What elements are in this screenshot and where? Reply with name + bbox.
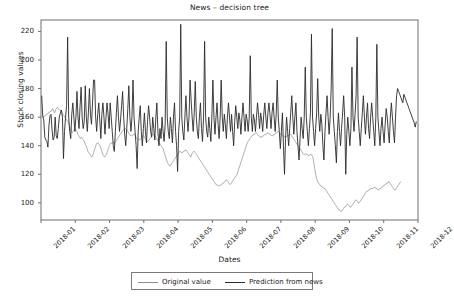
series-line-original: [42, 107, 401, 211]
y-tick-label: 200: [10, 56, 34, 64]
legend-label-prediction: Prediction from news: [249, 278, 323, 286]
y-tick-label: 120: [10, 170, 34, 178]
legend-line-original: [138, 282, 158, 283]
legend-line-prediction: [225, 282, 245, 283]
legend-entry-original: Original value: [138, 273, 211, 291]
legend-entry-prediction: Prediction from news: [225, 273, 323, 291]
y-tick-label: 140: [10, 142, 34, 150]
y-tick-label: 160: [10, 113, 34, 121]
y-tick-label: 100: [10, 199, 34, 207]
y-tick-label: 180: [10, 85, 34, 93]
chart-legend: Original value Prediction from news: [131, 272, 313, 290]
series-line-prediction: [42, 24, 417, 174]
data-series-group: [42, 24, 417, 211]
legend-label-original: Original value: [162, 278, 211, 286]
y-tick-label: 220: [10, 27, 34, 35]
